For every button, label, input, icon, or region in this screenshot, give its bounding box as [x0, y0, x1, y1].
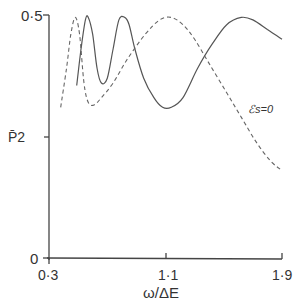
x-tick-label-1.1: 1·1: [158, 267, 178, 283]
y-axis-label: P̄2: [8, 129, 25, 145]
y-tick-label-top: 0·5: [21, 7, 43, 24]
curve-annotation: ℰs=0: [248, 103, 274, 115]
x-tick-label-0.3: 0·3: [38, 267, 58, 283]
y-tick-label-zero: 0: [30, 250, 38, 267]
chart: 0·5 0 0·3 1·1 1·9 ω/ΔE P̄2 ℰs=0: [0, 0, 300, 305]
x-axis-label: ω/ΔE: [143, 284, 179, 301]
series-solid-line: [77, 16, 282, 109]
x-tick-label-1.9: 1·9: [272, 267, 292, 283]
x-axis: [47, 258, 282, 259]
